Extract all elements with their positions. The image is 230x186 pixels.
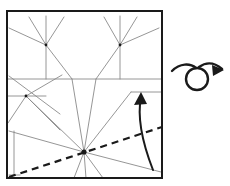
diagram-background [0, 0, 230, 186]
left-mid-vertex [25, 95, 28, 98]
origami-svg-canvas [0, 0, 230, 186]
bottom-hub-vertex [81, 149, 86, 154]
top-right-vertex [119, 44, 122, 47]
origami-diagram [0, 0, 230, 186]
top-left-vertex [45, 44, 48, 47]
